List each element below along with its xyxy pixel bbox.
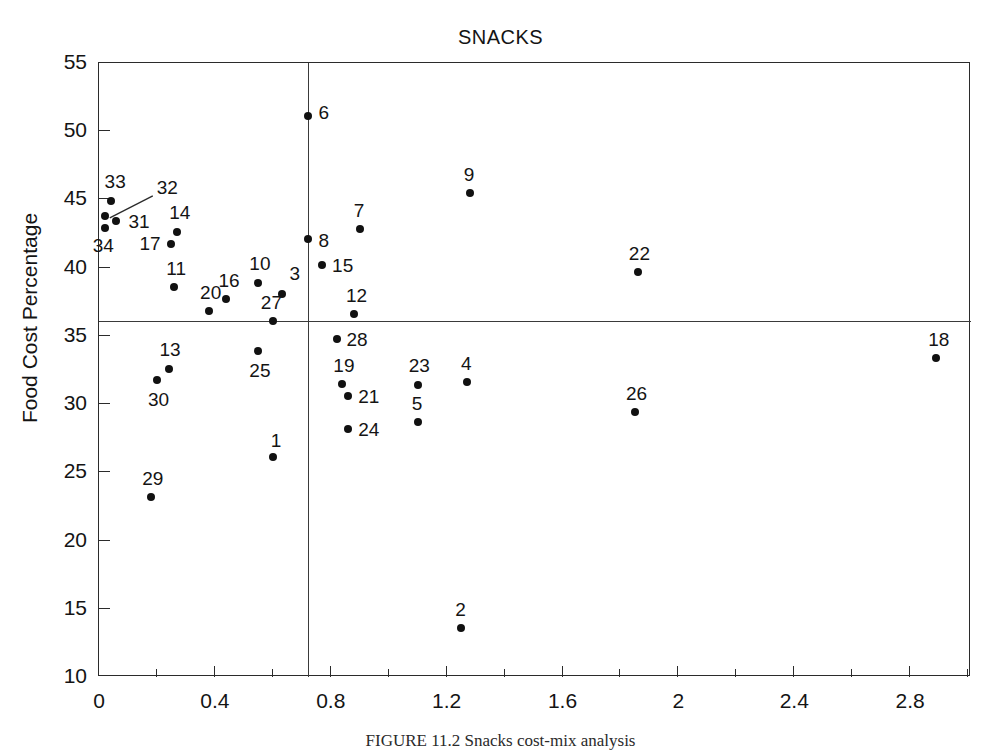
data-point-label: 28 <box>347 330 368 349</box>
y-tick-label: 35 <box>27 323 87 347</box>
data-point-label: 10 <box>249 254 270 273</box>
data-point-label: 1 <box>271 431 282 450</box>
x-tick-label: 2.4 <box>754 689 834 713</box>
data-point[interactable] <box>344 392 352 400</box>
x-tick-mark <box>214 666 215 677</box>
data-point-label: 32 <box>157 178 178 197</box>
vertical-reference-line <box>308 63 309 677</box>
x-tick-mark <box>330 666 331 677</box>
data-point-label: 25 <box>249 361 270 380</box>
data-point[interactable] <box>631 408 639 416</box>
x-tick-mark <box>272 669 273 677</box>
data-point[interactable] <box>338 380 346 388</box>
data-point-label: 14 <box>169 203 190 222</box>
data-point-label: 12 <box>346 286 367 305</box>
x-tick-label: 1.2 <box>407 689 487 713</box>
data-point[interactable] <box>350 310 358 318</box>
data-point-label: 23 <box>409 356 430 375</box>
x-tick-label: 0 <box>59 689 139 713</box>
data-point-label: 5 <box>412 394 423 413</box>
x-tick-mark <box>562 666 563 677</box>
data-point-label: 34 <box>93 236 114 255</box>
data-point-label: 9 <box>464 165 475 184</box>
x-tick-label: 2.8 <box>870 689 950 713</box>
data-point[interactable] <box>466 189 474 197</box>
data-point[interactable] <box>356 225 364 233</box>
x-tick-mark <box>388 669 389 677</box>
x-tick-mark <box>156 669 157 677</box>
x-tick-mark <box>967 669 968 677</box>
data-point[interactable] <box>932 354 940 362</box>
leader-line-icon <box>99 63 971 677</box>
data-point[interactable] <box>153 376 161 384</box>
y-tick-mark <box>99 335 110 336</box>
data-point-label: 21 <box>358 387 379 406</box>
data-point[interactable] <box>173 228 181 236</box>
x-tick-mark <box>504 669 505 677</box>
y-tick-mark <box>99 403 110 404</box>
data-point-label: 18 <box>928 330 949 349</box>
figure-caption: FIGURE 11.2 Snacks cost-mix analysis <box>0 731 1001 751</box>
data-point[interactable] <box>457 624 465 632</box>
data-point-label: 22 <box>629 244 650 263</box>
data-point-label: 8 <box>319 231 330 250</box>
data-point-label: 19 <box>333 356 354 375</box>
data-point-label: 17 <box>139 234 160 253</box>
data-point-label: 15 <box>332 256 353 275</box>
data-point[interactable] <box>254 279 262 287</box>
data-point[interactable] <box>222 295 230 303</box>
data-point-label: 33 <box>105 172 126 191</box>
data-point[interactable] <box>167 240 175 248</box>
data-point[interactable] <box>414 381 422 389</box>
y-tick-label: 10 <box>27 664 87 688</box>
y-tick-label: 45 <box>27 186 87 210</box>
data-point[interactable] <box>304 112 312 120</box>
x-tick-label: 1.6 <box>523 689 603 713</box>
plot-area: 1015202530354045505500.40.81.21.622.42.8… <box>98 62 970 676</box>
data-point[interactable] <box>344 425 352 433</box>
data-point-label: 31 <box>128 212 149 231</box>
data-point[interactable] <box>333 335 341 343</box>
x-tick-mark <box>909 666 910 677</box>
data-point[interactable] <box>165 365 173 373</box>
data-point[interactable] <box>107 197 115 205</box>
y-tick-mark <box>99 540 110 541</box>
data-point[interactable] <box>634 268 642 276</box>
x-tick-mark <box>619 669 620 677</box>
data-point-label: 29 <box>142 469 163 488</box>
data-point[interactable] <box>269 453 277 461</box>
data-point-label: 7 <box>354 201 365 220</box>
y-tick-label: 40 <box>27 255 87 279</box>
y-tick-label: 55 <box>27 50 87 74</box>
data-point[interactable] <box>147 493 155 501</box>
y-tick-label: 50 <box>27 118 87 142</box>
data-point[interactable] <box>318 261 326 269</box>
horizontal-reference-line <box>99 321 971 322</box>
data-point[interactable] <box>205 307 213 315</box>
data-point-label: 26 <box>626 384 647 403</box>
data-point-label: 13 <box>160 340 181 359</box>
data-point-label: 27 <box>261 293 282 312</box>
data-point[interactable] <box>170 283 178 291</box>
data-point-label: 3 <box>290 264 301 283</box>
data-point[interactable] <box>101 224 109 232</box>
x-tick-mark <box>735 669 736 677</box>
data-point[interactable] <box>463 378 471 386</box>
y-tick-mark <box>99 608 110 609</box>
data-point[interactable] <box>414 418 422 426</box>
x-tick-mark <box>851 669 852 677</box>
data-point-label: 2 <box>455 600 466 619</box>
data-point[interactable] <box>254 347 262 355</box>
x-tick-label: 0.8 <box>291 689 371 713</box>
data-point[interactable] <box>304 235 312 243</box>
x-tick-mark <box>677 666 678 677</box>
x-tick-mark <box>446 666 447 677</box>
y-tick-label: 30 <box>27 391 87 415</box>
data-point-label: 16 <box>218 271 239 290</box>
y-tick-label: 15 <box>27 596 87 620</box>
data-point[interactable] <box>112 217 120 225</box>
data-point[interactable] <box>101 212 109 220</box>
y-tick-mark <box>99 267 110 268</box>
data-point[interactable] <box>269 317 277 325</box>
